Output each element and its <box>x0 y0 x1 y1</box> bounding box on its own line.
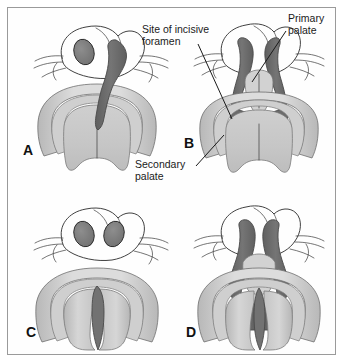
panel-a-nostril-intact <box>71 37 97 68</box>
panel-c-head <box>34 208 168 264</box>
panel-a-letter: A <box>23 142 33 158</box>
label-incisive-foramen-line2: foramen <box>142 35 181 47</box>
panel-c-cleft <box>92 286 104 350</box>
panel-d-head <box>194 206 324 262</box>
panel-a-illustration: A <box>23 26 168 170</box>
panel-d-letter: D <box>186 324 196 340</box>
label-primary-palate-line1: Primary <box>288 12 325 24</box>
figure-container: A <box>0 0 344 364</box>
panel-c-palate <box>36 268 158 350</box>
panel-b-palate <box>200 92 318 172</box>
panel-c-nostril-right <box>101 219 127 250</box>
panel-c-nostril-left <box>71 219 97 250</box>
label-secondary-palate-line1: Secondary <box>135 158 186 170</box>
panel-b-letter: B <box>184 135 194 151</box>
panel-d-illustration: D <box>186 206 324 350</box>
panel-c-letter: C <box>26 324 36 340</box>
label-primary-palate-line2: palate <box>288 24 317 36</box>
panel-d-palate <box>198 268 320 350</box>
label-incisive-foramen-line1: Site of incisive <box>142 23 209 35</box>
panel-b-illustration: B <box>184 24 324 172</box>
panel-c-illustration: C <box>26 208 168 350</box>
panel-d-cleft-midline <box>254 288 265 350</box>
label-secondary-palate-line2: palate <box>135 170 164 182</box>
figure-illustration: A <box>0 0 344 364</box>
